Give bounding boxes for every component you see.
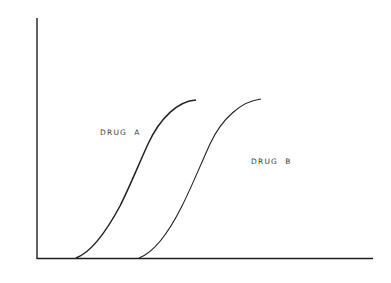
drug-b-label: DRUG B xyxy=(251,157,292,166)
curve-drug-a xyxy=(76,100,196,258)
dose-response-chart xyxy=(0,0,391,283)
curve-drug-b xyxy=(139,99,261,258)
drug-a-label: DRUG A xyxy=(100,128,141,137)
